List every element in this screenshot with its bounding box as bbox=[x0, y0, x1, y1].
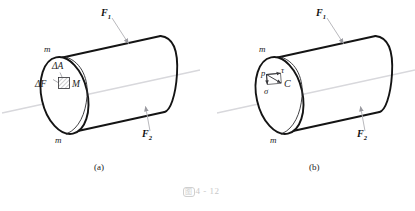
normal-stress-label-b: σ bbox=[264, 87, 268, 96]
total-stress-label-b: p bbox=[261, 69, 265, 78]
section-label-m-bottom-b: m bbox=[270, 136, 277, 145]
force-1-leader-b bbox=[327, 18, 344, 44]
delta-force-label-a: ΔF bbox=[35, 80, 46, 90]
shear-stress-label-b: τ bbox=[281, 66, 284, 75]
section-label-m-top-b: m bbox=[259, 45, 266, 54]
figure-caption: 图4 - 12 bbox=[183, 187, 220, 197]
force-subscript-f2-b: 2 bbox=[364, 134, 367, 141]
cylinder-b-top-edge bbox=[278, 36, 376, 58]
element-area-square-a bbox=[59, 78, 70, 89]
force-label-f1-a: F1 bbox=[101, 8, 111, 21]
panel-label-b: (b) bbox=[309, 163, 320, 172]
force-subscript-f1-b: 1 bbox=[323, 13, 326, 20]
cylinder-a-far-rim bbox=[161, 36, 178, 112]
figure-caption-number: 4 - 12 bbox=[196, 186, 220, 196]
force-subscript-f2-a: 2 bbox=[149, 134, 152, 141]
delta-area-label-a: ΔA bbox=[52, 62, 63, 72]
cylinder-a-near-face bbox=[34, 52, 96, 138]
figure-4-12: m m F1 F2 ΔA ΔF M (a) m m F1 F2 p τ σ C … bbox=[0, 0, 415, 211]
section-label-m-top-a: m bbox=[44, 45, 51, 54]
figure-drawing bbox=[0, 0, 415, 211]
cylinder-a-top-edge bbox=[63, 36, 161, 58]
force-symbol-f1-a: F bbox=[101, 7, 108, 18]
force-symbol-f1-b: F bbox=[316, 7, 323, 18]
panel-a-drawing bbox=[2, 18, 200, 139]
force-symbol-f2-a: F bbox=[142, 128, 149, 139]
force-1-leader-a bbox=[112, 18, 129, 44]
figure-caption-mark: 图 bbox=[183, 187, 195, 197]
panel-b-drawing bbox=[217, 18, 415, 139]
section-label-m-bottom-a: m bbox=[55, 136, 62, 145]
force-subscript-f1-a: 1 bbox=[108, 13, 111, 20]
point-c-label-b: C bbox=[284, 79, 291, 89]
force-label-f1-b: F1 bbox=[316, 8, 326, 21]
cylinder-b-near-face bbox=[249, 52, 311, 138]
point-m-label-a: M bbox=[72, 80, 80, 90]
cylinder-b-far-rim bbox=[376, 36, 393, 112]
force-label-f2-b: F2 bbox=[357, 129, 367, 142]
panel-label-a: (a) bbox=[94, 163, 104, 172]
force-symbol-f2-b: F bbox=[357, 128, 364, 139]
force-label-f2-a: F2 bbox=[142, 129, 152, 142]
